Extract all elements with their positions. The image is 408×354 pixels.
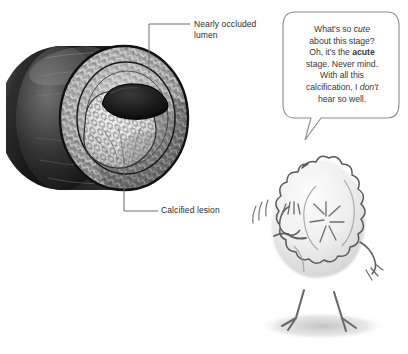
artery-cross-section-illustration	[6, 18, 206, 218]
fuzzy-chick-character	[238, 150, 408, 346]
speech-text-run: What's so	[314, 24, 354, 34]
speech-text-run: cute	[354, 24, 370, 34]
speech-text-run: Oh, it's the	[309, 47, 352, 57]
speech-text-run: stage. Never mind.	[306, 59, 378, 69]
speech-text-run: hear so well.	[318, 94, 366, 104]
speech-text-run: acute	[352, 47, 374, 57]
illustration-page: Nearly occluded lumen Calcified lesion W…	[0, 0, 408, 354]
speech-text-run: about this stage?	[309, 36, 374, 46]
speech-text-run: calcification, I	[306, 82, 360, 92]
label-nearly-occluded-lumen: Nearly occluded lumen	[194, 19, 280, 40]
chick-right-wing	[360, 242, 383, 280]
chick-ground-shadow	[258, 312, 386, 340]
speech-text-run: don't	[360, 82, 378, 92]
speech-balloon-text: What's so cuteabout this stage?Oh, it's …	[287, 24, 397, 105]
wave-motion-lines	[253, 200, 268, 223]
speech-text-run: With all this	[320, 70, 364, 80]
